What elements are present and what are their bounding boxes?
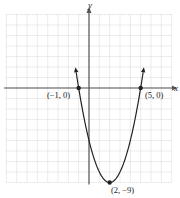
point-label-vertex: (2, −9) (111, 185, 134, 195)
point-label-left-root: (−1, 0) (47, 90, 70, 100)
point-marker (76, 86, 80, 90)
curve-arrow-icon (74, 67, 78, 72)
point-label-right-root: (5, 0) (145, 90, 164, 100)
y-axis-label: y (87, 0, 92, 10)
curve-arrow-icon (141, 67, 145, 72)
parabola-graph: x y (−1, 0) (5, 0) (2, −9) (0, 0, 180, 198)
point-marker (138, 86, 142, 90)
x-axis-label: x (173, 83, 178, 93)
